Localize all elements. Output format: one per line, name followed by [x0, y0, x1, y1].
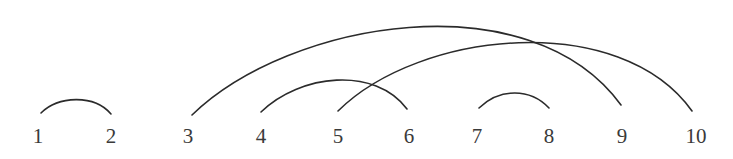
node-label-7: 7 — [472, 124, 483, 148]
node-label-2: 2 — [106, 124, 117, 148]
node-labels: 1 2 3 4 5 6 7 8 9 10 — [33, 124, 707, 148]
arc-diagram: 1 2 3 4 5 6 7 8 9 10 — [0, 0, 733, 159]
node-label-6: 6 — [404, 124, 415, 148]
node-label-1: 1 — [33, 124, 44, 148]
node-label-5: 5 — [333, 124, 344, 148]
arcs — [41, 26, 692, 115]
node-label-8: 8 — [544, 124, 555, 148]
arc-3-9 — [192, 26, 621, 115]
node-label-10: 10 — [686, 124, 707, 148]
node-label-9: 9 — [617, 124, 628, 148]
arc-5-10 — [338, 43, 692, 111]
arc-1-2 — [41, 100, 111, 114]
node-label-3: 3 — [183, 124, 194, 148]
node-label-4: 4 — [256, 124, 267, 148]
arc-7-8 — [479, 93, 549, 108]
arc-4-6 — [261, 80, 407, 112]
